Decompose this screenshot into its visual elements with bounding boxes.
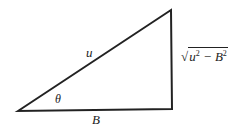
adjacent-label: B xyxy=(92,113,100,126)
angle-theta-label: θ xyxy=(55,93,61,105)
hypotenuse-label: u xyxy=(86,46,93,59)
radicand: u2 − B2 xyxy=(188,47,228,65)
opposite-side-label: √u2 − B2 xyxy=(181,47,228,65)
sqrt-symbol: √ xyxy=(181,49,188,64)
right-triangle xyxy=(18,10,172,111)
